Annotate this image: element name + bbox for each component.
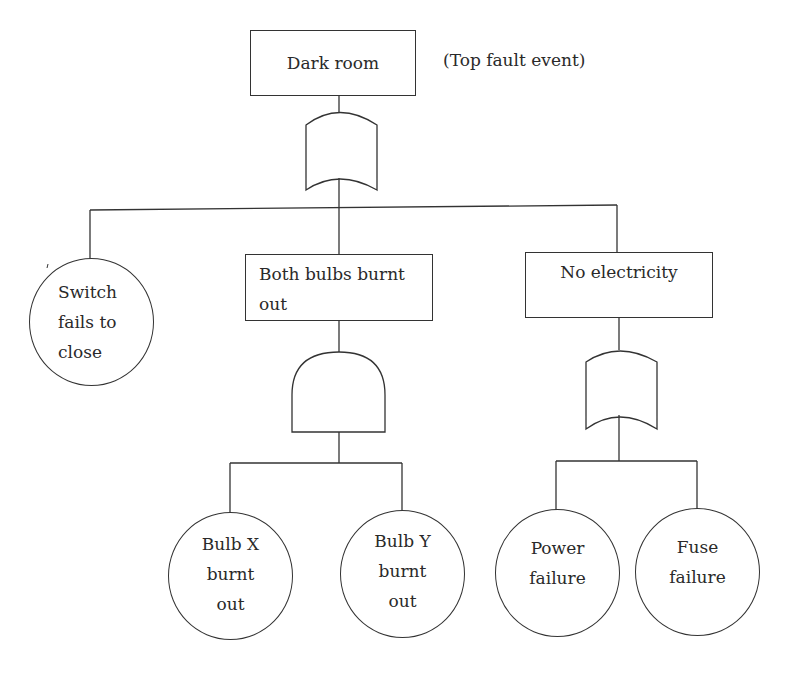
top-event-label: Dark room	[287, 48, 379, 78]
basic-event-fuse: Fuse failure	[635, 508, 760, 636]
bulb-y-label: Bulb Y burnt out	[374, 526, 430, 616]
bulbs-event-label: Both bulbs burnt out	[259, 264, 405, 314]
or-gate-right-icon	[586, 351, 657, 429]
electricity-event-label: No electricity	[560, 262, 677, 282]
fuse-label: Fuse failure	[669, 532, 725, 592]
intermediate-event-electricity: No electricity	[525, 252, 713, 318]
intermediate-event-bulbs: Both bulbs burnt out	[245, 254, 433, 321]
or-gate-top-icon	[306, 113, 377, 191]
bulb-x-label: Bulb X burnt out	[202, 529, 259, 619]
basic-event-bulb-y: Bulb Y burnt out	[340, 510, 465, 638]
top-event-annotation: (Top fault event)	[443, 50, 585, 70]
basic-event-bulb-x: Bulb X burnt out	[168, 512, 293, 640]
switch-label: Switch fails to close	[58, 277, 117, 367]
top-event-box: Dark room	[250, 30, 416, 96]
and-gate-icon	[292, 352, 385, 432]
basic-event-switch: Switch fails to close	[29, 258, 154, 386]
power-label: Power failure	[529, 533, 585, 593]
basic-event-power: Power failure	[495, 509, 620, 637]
